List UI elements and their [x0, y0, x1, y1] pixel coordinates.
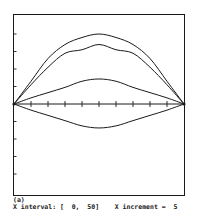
origin-point: [12, 102, 15, 105]
series-curve-3: [14, 79, 184, 104]
series-lines: [14, 34, 184, 128]
end-point: [182, 102, 185, 105]
series-curve-4: [14, 104, 184, 128]
line-chart: [0, 0, 197, 197]
interval-info: X interval: [ 0, 50] X increment = 5: [13, 204, 177, 211]
